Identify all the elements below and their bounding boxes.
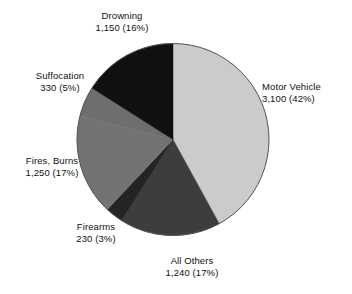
slice-label-fires-burns: Fires, Burns 1,250 (17%) [6, 155, 98, 179]
slice-label-all-others-name: All Others [146, 255, 238, 267]
slice-label-motor-vehicle: Motor Vehicle 3,100 (42%) [262, 81, 350, 105]
slice-label-motor-vehicle-name: Motor Vehicle [262, 81, 350, 93]
slice-label-suffocation-value: 330 (5%) [14, 82, 106, 94]
slice-label-drowning-value: 1,150 (16%) [78, 22, 166, 34]
slice-label-all-others-value: 1,240 (17%) [146, 267, 238, 279]
slice-label-firearms: Firearms 230 (3%) [54, 221, 138, 245]
pie-chart-graphic [0, 0, 352, 294]
slice-label-drowning-name: Drowning [78, 10, 166, 22]
slice-label-fires-burns-name: Fires, Burns [6, 155, 98, 167]
slice-label-firearms-value: 230 (3%) [54, 233, 138, 245]
slice-label-motor-vehicle-value: 3,100 (42%) [262, 93, 350, 105]
slice-label-drowning: Drowning 1,150 (16%) [78, 10, 166, 34]
slice-label-suffocation: Suffocation 330 (5%) [14, 70, 106, 94]
pie-chart-figure: Drowning 1,150 (16%) Motor Vehicle 3,100… [0, 0, 352, 294]
slice-label-all-others: All Others 1,240 (17%) [146, 255, 238, 279]
slice-label-firearms-name: Firearms [54, 221, 138, 233]
slice-label-fires-burns-value: 1,250 (17%) [6, 167, 98, 179]
slice-label-suffocation-name: Suffocation [14, 70, 106, 82]
